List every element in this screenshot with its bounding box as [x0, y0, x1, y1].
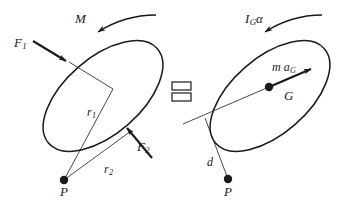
- label-radius-r2-subscript: 2: [109, 168, 113, 177]
- moment-arrow-ig-alpha: [265, 15, 322, 32]
- force-f1-arrow: [33, 41, 66, 61]
- label-mass-acceleration-base: m a: [272, 60, 290, 74]
- label-force-f1-subscript: 1: [22, 41, 27, 51]
- point-p-left-dot: [60, 176, 68, 184]
- point-p-right-dot: [224, 175, 232, 183]
- center-of-mass-dot: [265, 83, 273, 91]
- label-radius-r1-subscript: 1: [92, 111, 96, 120]
- distance-d-line: [205, 118, 228, 179]
- label-distance-d: d: [207, 156, 213, 168]
- label-point-p-right: P: [224, 185, 232, 198]
- equals-sign: [172, 82, 191, 101]
- label-force-f2-base: F: [137, 139, 145, 154]
- label-force-f2: F2: [137, 140, 150, 155]
- left-body-ellipse: [24, 20, 183, 172]
- figure-canvas: M F1 r1 r2 F2 P IGα m aG G d P: [0, 0, 352, 204]
- label-radius-r2: r2: [104, 163, 113, 177]
- label-force-f1-base: F: [14, 35, 22, 50]
- right-body-ellipse: [191, 20, 350, 172]
- label-center-of-mass-g: G: [284, 89, 293, 102]
- equals-bar-bottom: [172, 93, 191, 101]
- line-of-action: [183, 87, 269, 124]
- label-ig-alpha: IGα: [245, 12, 263, 27]
- moment-arrow-M: [98, 15, 156, 32]
- label-moment-m: M: [75, 12, 86, 25]
- label-force-f2-subscript: 2: [145, 145, 150, 155]
- label-force-f1: F1: [14, 36, 27, 51]
- label-mass-acceleration-subscript: G: [290, 66, 296, 75]
- label-radius-r1: r1: [87, 106, 96, 120]
- left-body-group: [24, 15, 183, 184]
- label-mass-acceleration: m aG: [272, 61, 296, 75]
- label-point-p-left: P: [60, 185, 68, 198]
- label-radius-r1-base: r: [87, 105, 92, 119]
- equals-bar-top: [172, 82, 191, 90]
- diagram-svg: [0, 0, 352, 204]
- label-alpha-symbol: α: [256, 11, 263, 26]
- radius-r2-line: [64, 131, 131, 180]
- label-radius-r2-base: r: [104, 162, 109, 176]
